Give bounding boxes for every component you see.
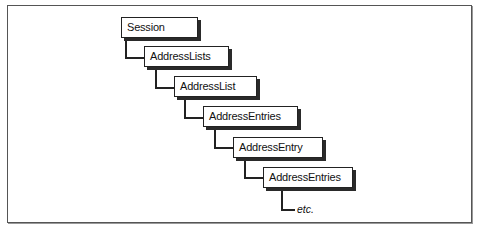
- node-address-entry: AddressEntry: [233, 137, 323, 158]
- node-address-entries-2: AddressEntries: [263, 167, 353, 188]
- connector: [184, 117, 203, 119]
- node-address-lists: AddressLists: [144, 46, 229, 67]
- connector: [214, 129, 216, 148]
- node-session: Session: [121, 17, 198, 38]
- connector: [244, 159, 246, 178]
- connector: [184, 98, 186, 118]
- connector: [155, 68, 157, 88]
- connector: [125, 38, 127, 58]
- node-address-entries: AddressEntries: [203, 106, 298, 127]
- connector: [125, 57, 144, 59]
- connector: [281, 209, 295, 211]
- connector: [155, 87, 174, 89]
- continuation-label: etc.: [297, 203, 314, 215]
- connector: [281, 189, 283, 210]
- node-address-list: AddressList: [174, 76, 257, 97]
- connector: [244, 177, 263, 179]
- connector: [214, 147, 233, 149]
